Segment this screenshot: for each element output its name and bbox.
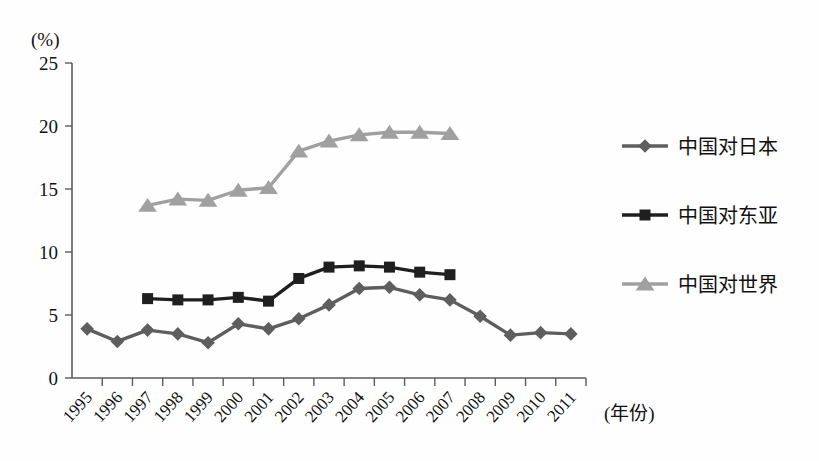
- data-point-marker: [141, 323, 155, 337]
- data-point-marker: [564, 327, 578, 341]
- x-tick-label: 2003: [301, 388, 338, 426]
- x-tick-label: 2002: [271, 388, 308, 426]
- data-point-marker: [638, 139, 652, 153]
- x-axis-tick-labels: 1995199619971998199920002001200220032004…: [59, 388, 580, 426]
- x-tick-label: 2008: [452, 388, 489, 426]
- y-tick-label: 25: [39, 53, 58, 74]
- y-axis-ticks: [65, 63, 72, 378]
- x-tick-label: 2000: [210, 388, 247, 426]
- data-point-marker: [384, 262, 395, 273]
- data-point-marker: [263, 296, 274, 307]
- series-line: [87, 287, 571, 342]
- legend-label: 中国对世界: [678, 274, 778, 296]
- legend-label: 中国对东亚: [678, 205, 778, 227]
- y-tick-label: 10: [39, 242, 58, 263]
- data-point-marker: [324, 262, 335, 273]
- x-tick-label: 2004: [331, 388, 368, 426]
- series-1: [80, 280, 577, 349]
- series-layer: [80, 125, 577, 350]
- data-point-marker: [534, 326, 548, 340]
- data-point-marker: [172, 294, 183, 305]
- x-tick-label: 1995: [59, 388, 96, 426]
- data-point-marker: [322, 298, 336, 312]
- data-point-marker: [142, 293, 153, 304]
- data-point-marker: [233, 292, 244, 303]
- x-tick-label: 1998: [150, 388, 187, 426]
- x-axis-ticks: [102, 378, 586, 386]
- x-tick-label: 2006: [392, 388, 429, 426]
- y-tick-label: 15: [39, 179, 58, 200]
- data-point-marker: [640, 210, 651, 221]
- data-point-marker: [292, 312, 306, 326]
- y-axis-group: 0510152025 (%): [31, 29, 72, 389]
- legend-label: 中国对日本: [678, 136, 778, 158]
- x-tick-label: 1996: [89, 388, 126, 426]
- y-tick-label: 20: [39, 116, 58, 137]
- data-point-marker: [383, 280, 397, 294]
- x-tick-label: 2009: [483, 388, 520, 426]
- chart-legend: 中国对日本中国对东亚中国对世界: [622, 136, 778, 296]
- line-chart-svg: 0510152025 (%) 1995199619971998199920002…: [0, 0, 819, 461]
- y-axis-tick-labels: 0510152025: [39, 53, 58, 389]
- data-point-marker: [111, 335, 125, 349]
- legend-item-1[interactable]: 中国对日本: [622, 136, 778, 158]
- data-point-marker: [293, 273, 304, 284]
- x-tick-label: 2007: [422, 388, 459, 426]
- legend-item-2[interactable]: 中国对东亚: [622, 205, 778, 227]
- x-axis-group: 1995199619971998199920002001200220032004…: [59, 378, 654, 426]
- data-point-marker: [443, 293, 457, 307]
- data-point-marker: [354, 260, 365, 271]
- x-tick-label: 2005: [362, 388, 399, 426]
- x-axis-name-label: (年份): [604, 403, 655, 425]
- x-tick-label: 2011: [543, 388, 579, 426]
- x-tick-label: 2001: [241, 388, 278, 426]
- series-line: [148, 132, 450, 205]
- data-point-marker: [413, 288, 427, 302]
- series-3: [138, 125, 459, 212]
- data-point-marker: [203, 294, 214, 305]
- y-axis-unit-label: (%): [31, 29, 59, 51]
- x-tick-label: 1999: [180, 388, 217, 426]
- data-point-marker: [352, 282, 366, 296]
- x-tick-label: 1997: [120, 388, 157, 426]
- data-point-marker: [262, 322, 276, 336]
- y-tick-label: 0: [49, 368, 59, 389]
- legend-item-3[interactable]: 中国对世界: [622, 274, 778, 296]
- data-point-marker: [171, 327, 185, 341]
- data-point-marker: [80, 322, 94, 336]
- chart-figure: 0510152025 (%) 1995199619971998199920002…: [0, 0, 819, 461]
- series-2: [142, 260, 455, 306]
- y-tick-label: 5: [49, 305, 59, 326]
- data-point-marker: [444, 269, 455, 280]
- data-point-marker: [414, 267, 425, 278]
- x-tick-label: 2010: [513, 388, 550, 426]
